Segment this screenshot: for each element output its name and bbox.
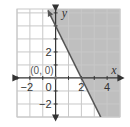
x-tick-label: −2	[21, 81, 34, 93]
y-tick-label: 2	[46, 46, 52, 58]
origin-label: 0	[46, 81, 52, 93]
y-axis-label: y	[61, 6, 68, 20]
x-tick-label: 2	[78, 81, 84, 93]
y-tick-label: −2	[39, 98, 52, 110]
x-axis-label: x	[110, 63, 117, 77]
boundary-line-arrow-end	[102, 123, 107, 127]
x-tick-label: 4	[104, 81, 110, 93]
inequality-graph: −2242−20xy(0, 0)	[0, 0, 130, 127]
origin-point	[54, 76, 58, 80]
point-annotation: (0, 0)	[30, 65, 53, 76]
